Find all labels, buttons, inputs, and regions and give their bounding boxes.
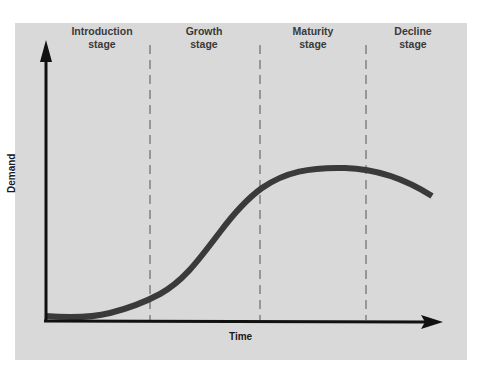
stage-label-line1: Growth (154, 25, 254, 38)
stage-label-line2: stage (52, 38, 152, 51)
stage-label-line1: Maturity (263, 25, 363, 38)
stage-label-introduction: Introduction stage (52, 25, 152, 51)
chart-background (15, 23, 467, 360)
x-axis-label: Time (229, 331, 252, 342)
x-axis (44, 321, 425, 322)
y-axis-label: Demand (6, 154, 17, 193)
stage-label-line1: Introduction (52, 25, 152, 38)
stage-label-decline: Decline stage (363, 25, 463, 51)
stage-label-line2: stage (263, 38, 363, 51)
stage-label-line2: stage (154, 38, 254, 51)
stage-label-line2: stage (363, 38, 463, 51)
stage-label-growth: Growth stage (154, 25, 254, 51)
stage-label-line1: Decline (363, 25, 463, 38)
stage-label-maturity: Maturity stage (263, 25, 363, 51)
